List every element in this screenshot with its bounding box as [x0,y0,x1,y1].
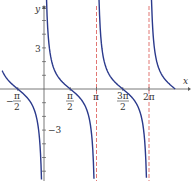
x-tick-pi-half-num: π [67,91,73,101]
cotangent-chart: x y 3 −3 − π 2 π 2 π 3π 2 2π [0,0,191,181]
x-tick-pi: π [93,92,99,102]
cot-branch [2,71,41,180]
x-tick-neg-pi-half-den: 2 [14,102,20,112]
x-tick-neg-pi-half-num: π [14,91,20,101]
cot-branch [151,0,175,89]
x-axis-arrow-icon [188,87,191,91]
y-tick-label-3: 3 [35,44,41,54]
x-axis-label: x [183,76,188,86]
y-axis-label: y [34,4,41,14]
y-tick-label-neg3: −3 [48,125,62,135]
x-tick-2pi: 2π [143,92,155,102]
x-tick-3pi-half-num: 3π [117,91,129,101]
x-tick-3pi-half-den: 2 [120,102,126,112]
x-tick-pi-half-den: 2 [67,102,73,112]
x-tick-neg-sign: − [6,96,14,106]
